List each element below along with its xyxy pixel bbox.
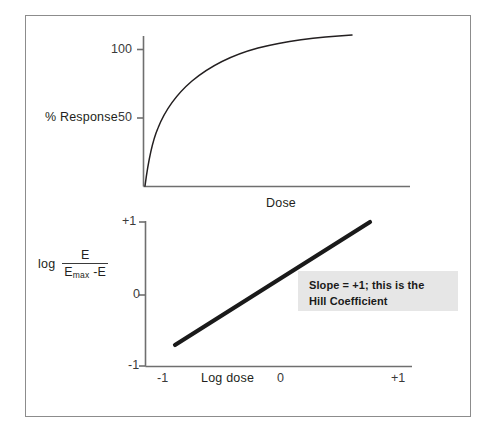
figure-root: % Response 100 50 Dose log E Emax -E +1 … (0, 0, 496, 441)
bottom-panel-x-axis-title: Log dose (201, 371, 254, 385)
formula-denominator-tail: -E (93, 265, 106, 279)
bottom-panel-xtick-pos1: +1 (391, 371, 405, 385)
annotation-line-1: Slope = +1; this is the (309, 278, 458, 294)
formula-log-operator: log (38, 257, 55, 271)
hill-coefficient-annotation: Slope = +1; this is the Hill Coefficient (298, 271, 458, 311)
bottom-panel-y-axis-formula: log E Emax -E (38, 248, 108, 280)
top-panel-y-axis-title: % Response (45, 110, 118, 124)
bottom-panel-ytick-zero: 0 (133, 287, 140, 301)
top-panel-ytick-100: 100 (111, 42, 132, 56)
bottom-panel-xtick-zero: 0 (277, 371, 284, 385)
formula-fraction: E Emax -E (62, 248, 108, 280)
bottom-panel-ytick-pos1: +1 (122, 214, 136, 228)
formula-denominator-subscript: max (73, 270, 90, 280)
top-panel-ytick-50: 50 (118, 110, 132, 124)
bottom-panel-ytick-neg1: -1 (128, 358, 139, 372)
formula-numerator: E (75, 248, 96, 263)
formula-denominator: Emax -E (62, 264, 108, 279)
formula-denominator-base: E (64, 265, 73, 279)
figure-border-frame (25, 15, 471, 417)
top-panel-x-axis-title: Dose (266, 196, 296, 210)
annotation-line-2: Hill Coefficient (309, 294, 458, 310)
bottom-panel-xtick-neg1: -1 (157, 371, 168, 385)
